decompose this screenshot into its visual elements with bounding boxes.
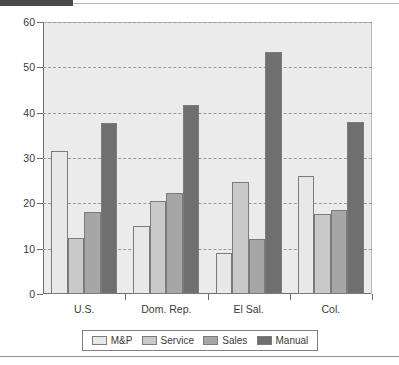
bar [232,182,249,294]
gridline-50 [43,67,372,68]
gridline-30 [43,158,372,159]
legend-label: M&P [111,336,133,346]
x-tick-label: El Sal. [204,304,294,315]
x-tick-label: Dom. Rep. [121,304,211,315]
bar [68,238,85,294]
bar [51,151,68,294]
top-black-bar [0,0,73,6]
x-tick-label: Col. [286,304,376,315]
top-horizontal-rule [73,3,399,4]
y-tick-30 [37,158,43,159]
y-tick-label: 10 [0,244,35,255]
y-tick-label: 30 [0,153,35,164]
legend-swatch-icon [142,336,157,345]
legend-item-sales[interactable]: Sales [203,336,247,346]
legend-item-service[interactable]: Service [142,336,194,346]
chart-legend: M&PServiceSalesManual [82,330,318,351]
bar [216,253,233,294]
legend-label: Manual [276,336,309,346]
y-tick-50 [37,67,43,68]
y-tick-label: 0 [0,289,35,300]
bar [314,214,331,294]
x-tick [208,294,209,300]
bar [133,226,150,294]
bar [265,52,282,294]
x-tick [125,294,126,300]
bar [183,105,200,294]
y-tick-label: 60 [0,17,35,28]
legend-swatch-icon [257,336,272,345]
x-tick-label: U.S. [39,304,129,315]
gridline-60 [43,22,372,23]
bar [150,201,167,294]
bottom-horizontal-rule [0,356,399,357]
bar [101,123,118,294]
legend-label: Sales [222,336,247,346]
y-tick-20 [37,203,43,204]
legend-label: Service [161,336,194,346]
y-tick-0 [37,294,43,295]
y-tick-40 [37,113,43,114]
legend-swatch-icon [92,336,107,345]
x-tick [372,294,373,300]
gridline-20 [43,203,372,204]
bar [298,176,315,294]
bar-chart-figure: 0102030405060 U.S.Dom. Rep.El Sal.Col. M… [0,8,399,353]
legend-item-m-p[interactable]: M&P [92,336,133,346]
gridline-40 [43,113,372,114]
x-tick [290,294,291,300]
y-tick-label: 20 [0,198,35,209]
y-tick-10 [37,249,43,250]
legend-swatch-icon [203,336,218,345]
y-tick-label: 40 [0,108,35,119]
y-tick-label: 50 [0,62,35,73]
legend-item-manual[interactable]: Manual [257,336,309,346]
bar [84,212,101,294]
bar [331,210,348,294]
bar [166,193,183,294]
bar [249,239,266,294]
bar [347,122,364,294]
y-tick-60 [37,22,43,23]
